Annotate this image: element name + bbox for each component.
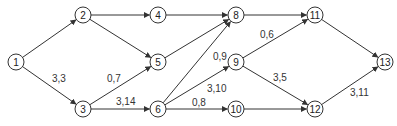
- node-label: 2: [80, 10, 86, 21]
- node-6: 6: [150, 101, 166, 117]
- edge-9-11: [243, 19, 308, 58]
- edge-label-6-8: 0,9: [213, 51, 227, 62]
- node-12: 12: [307, 101, 323, 117]
- edge-label-1-3: 3,3: [52, 73, 66, 84]
- node-8: 8: [228, 7, 244, 23]
- edge-1-2: [23, 20, 76, 58]
- node-4: 4: [150, 7, 166, 23]
- node-label: 6: [155, 104, 161, 115]
- edge-label-6-9: 3,10: [207, 83, 227, 94]
- edge-1-3: [23, 67, 76, 105]
- edges-layer: [23, 15, 378, 109]
- node-13: 13: [377, 54, 393, 70]
- edge-label-9-11: 0,6: [260, 29, 274, 40]
- edge-label-3-5: 0,7: [107, 73, 121, 84]
- edge-label-6-10: 0,8: [192, 97, 206, 108]
- node-1: 1: [8, 54, 24, 70]
- node-label: 4: [155, 10, 161, 21]
- edge-labels-layer: 3,30,73,140,93,100,80,63,53,11: [52, 29, 369, 108]
- node-3: 3: [75, 101, 91, 117]
- edge-12-13: [322, 67, 378, 105]
- node-11: 11: [307, 7, 323, 23]
- network-diagram: 3,30,73,140,93,100,80,63,53,11 123456891…: [0, 0, 397, 126]
- node-label: 13: [379, 57, 391, 68]
- edge-label-9-12: 3,5: [273, 72, 287, 83]
- edge-11-13: [322, 19, 378, 57]
- node-label: 10: [230, 104, 242, 115]
- edge-label-12-13: 3,11: [350, 87, 369, 98]
- node-label: 12: [309, 104, 321, 115]
- node-label: 1: [13, 57, 19, 68]
- node-label: 8: [233, 10, 239, 21]
- node-label: 5: [155, 57, 161, 68]
- node-9: 9: [228, 54, 244, 70]
- node-5: 5: [150, 54, 166, 70]
- node-label: 9: [233, 57, 239, 68]
- node-label: 11: [310, 10, 321, 21]
- edge-label-3-6: 3,14: [116, 96, 136, 107]
- edge-2-5: [90, 19, 151, 57]
- node-2: 2: [75, 7, 91, 23]
- node-10: 10: [228, 101, 244, 117]
- node-label: 3: [80, 104, 86, 115]
